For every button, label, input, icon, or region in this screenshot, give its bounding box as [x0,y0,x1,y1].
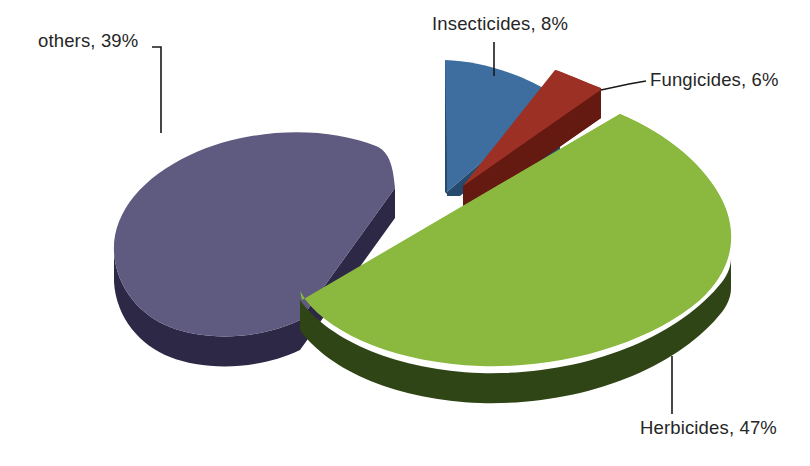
pie-chart-figure: others, 39% Insecticides, 8% Fungicides,… [0,0,810,466]
leader-line-others [152,47,161,133]
slice-label-insecticides: Insecticides, 8% [432,14,568,34]
slice-label-others: others, 39% [38,31,138,51]
leader-line-fungicides [601,81,646,90]
slice-label-fungicides: Fungicides, 6% [650,70,779,90]
slice-label-herbicides: Herbicides, 47% [640,418,777,438]
